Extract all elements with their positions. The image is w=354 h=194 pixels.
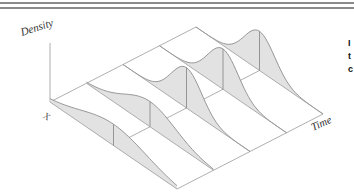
density-curves [50, 27, 323, 189]
x-axis-label: X [41, 110, 52, 122]
time-axis-label: Time [309, 113, 334, 133]
side-text-2: t [348, 51, 351, 61]
side-text-1: I [348, 38, 351, 48]
side-text-3: c [348, 64, 353, 74]
density-axis-label: Density [18, 16, 55, 38]
density-ridgeline-chart: Density X Time [0, 0, 354, 194]
